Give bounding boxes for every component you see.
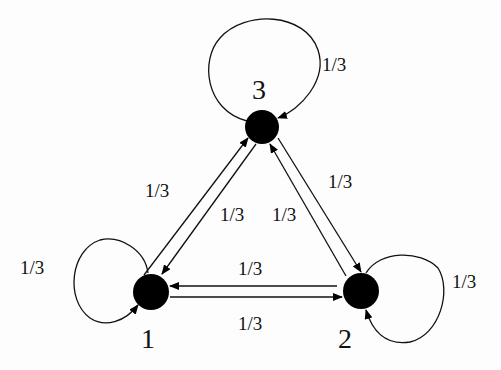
edge-label-3-1: 1/3 [220, 205, 244, 224]
edge-label-3-2: 1/3 [328, 172, 352, 191]
edge-label-1-2: 1/3 [238, 314, 262, 333]
self-loop-3 [209, 19, 320, 121]
edge-label-2-3: 1/3 [272, 205, 296, 224]
markov-chain-diagram: 3 1 2 1/3 1/3 1/3 1/3 1/3 1/3 1/3 1/3 1/… [0, 0, 501, 370]
edge-label-1-3: 1/3 [145, 181, 169, 200]
node-1 [133, 274, 169, 310]
node-2 [343, 273, 379, 309]
node-label-3: 3 [252, 76, 266, 104]
self-loop-2 [366, 255, 444, 343]
edge-label-2-2: 1/3 [452, 272, 476, 291]
node-3 [245, 110, 279, 144]
edge-label-3-3: 1/3 [322, 55, 346, 74]
edge-label-2-1: 1/3 [238, 259, 262, 278]
node-label-1: 1 [141, 325, 155, 353]
edge-label-1-1: 1/3 [20, 258, 44, 277]
node-label-2: 2 [338, 325, 352, 353]
